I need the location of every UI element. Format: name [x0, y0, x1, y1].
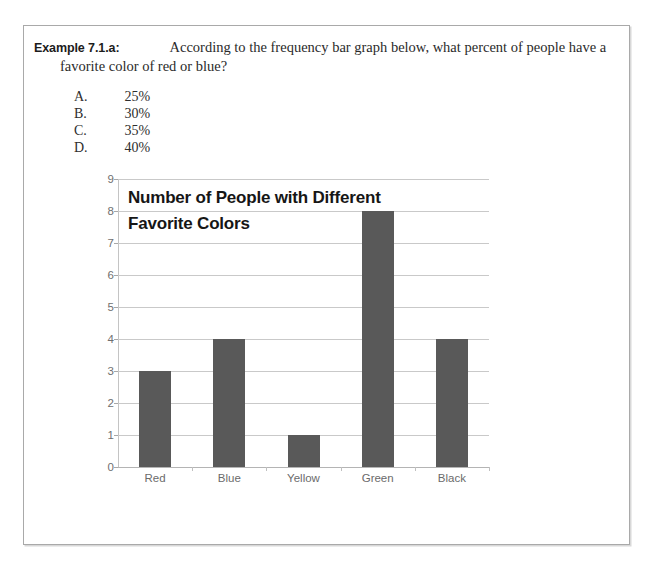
question-prompt-line-2: favorite color of red or blue?	[60, 58, 619, 75]
answer-choices: A. 25% B. 30% C. 35% D. 40%	[74, 88, 150, 156]
y-axis-tick-label-8: 8	[94, 205, 114, 217]
y-tick-2	[114, 403, 118, 404]
y-axis-tick-label-6: 6	[94, 269, 114, 281]
gridline-6	[118, 275, 489, 276]
y-tick-3	[114, 371, 118, 372]
bar-chart: 0123456789 Number of People with Differe…	[94, 179, 514, 374]
bar-yellow	[288, 435, 320, 467]
gridline-4	[118, 339, 489, 340]
choice-b[interactable]: B. 30%	[74, 105, 150, 122]
gridline-8	[118, 211, 489, 212]
question-block: Example 7.1.a: According to the frequenc…	[34, 38, 619, 75]
x-axis-label-yellow: Yellow	[287, 472, 320, 484]
x-tick-5	[489, 467, 490, 471]
y-tick-6	[114, 275, 118, 276]
x-axis-label-blue: Blue	[218, 472, 241, 484]
choice-b-letter: B.	[74, 105, 121, 122]
document-page: Example 7.1.a: According to the frequenc…	[23, 25, 630, 545]
y-tick-5	[114, 307, 118, 308]
y-axis-labels: 0123456789	[94, 179, 114, 467]
x-axis-line	[118, 467, 489, 468]
y-tick-9	[114, 179, 118, 180]
gridline-7	[118, 243, 489, 244]
question-prompt-line-1: According to the frequency bar graph bel…	[169, 39, 606, 55]
bar-red	[139, 371, 171, 467]
x-tick-1	[192, 467, 193, 471]
y-axis-tick-label-0: 0	[94, 461, 114, 473]
y-axis-tick-label-9: 9	[94, 173, 114, 185]
example-label: Example 7.1.a:	[34, 41, 119, 55]
y-axis-tick-label-1: 1	[94, 429, 114, 441]
choice-c-value: 35%	[125, 122, 151, 139]
y-tick-4	[114, 339, 118, 340]
choice-c-letter: C.	[74, 122, 121, 139]
gridline-5	[118, 307, 489, 308]
question-first-line: Example 7.1.a: According to the frequenc…	[34, 38, 619, 56]
x-axis-label-black: Black	[438, 472, 466, 484]
choice-a-value: 25%	[125, 88, 151, 105]
choice-c[interactable]: C. 35%	[74, 122, 150, 139]
y-axis-line	[118, 179, 119, 467]
choice-d-value: 40%	[125, 139, 151, 156]
chart-title-line-2: Favorite Colors	[128, 211, 468, 237]
y-tick-8	[114, 211, 118, 212]
choice-d-letter: D.	[74, 139, 121, 156]
x-axis-labels: RedBlueYellowGreenBlack	[118, 472, 489, 492]
plot-area: Number of People with Different Favorite…	[118, 179, 489, 467]
y-axis-tick-label-5: 5	[94, 301, 114, 313]
y-axis-tick-label-2: 2	[94, 397, 114, 409]
choice-a[interactable]: A. 25%	[74, 88, 150, 105]
choice-a-letter: A.	[74, 88, 121, 105]
bar-blue	[213, 339, 245, 467]
x-tick-3	[341, 467, 342, 471]
choice-b-value: 30%	[125, 105, 151, 122]
y-axis-tick-label-4: 4	[94, 333, 114, 345]
x-axis-label-green: Green	[362, 472, 394, 484]
y-axis-tick-label-3: 3	[94, 365, 114, 377]
x-tick-2	[266, 467, 267, 471]
bar-black	[436, 339, 468, 467]
gridline-3	[118, 371, 489, 372]
y-tick-1	[114, 435, 118, 436]
bar-green	[362, 211, 394, 467]
chart-title-line-1: Number of People with Different	[128, 185, 468, 211]
choice-d[interactable]: D. 40%	[74, 139, 150, 156]
gridline-9	[118, 179, 489, 180]
y-tick-7	[114, 243, 118, 244]
y-tick-0	[114, 467, 118, 468]
x-tick-4	[415, 467, 416, 471]
y-axis-tick-label-7: 7	[94, 237, 114, 249]
gridline-2	[118, 403, 489, 404]
x-axis-label-red: Red	[145, 472, 166, 484]
